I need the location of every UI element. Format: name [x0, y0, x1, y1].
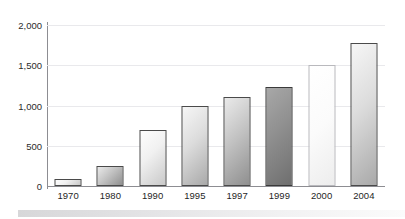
- bar-slot: [301, 25, 343, 186]
- x-tick-label: 2004: [353, 190, 374, 201]
- bar[interactable]: [55, 179, 82, 186]
- x-tick-label: 1999: [269, 190, 290, 201]
- bar-slot: [258, 25, 300, 186]
- bar[interactable]: [97, 166, 124, 186]
- y-tick-label: 2,000: [0, 20, 42, 31]
- y-tick-label: 0: [0, 181, 42, 192]
- y-tick-label: 1,000: [0, 100, 42, 111]
- bar-slot: [132, 25, 174, 186]
- bar[interactable]: [308, 65, 335, 186]
- y-tick-label: 500: [0, 140, 42, 151]
- chart-title-cropped: [22, 0, 282, 6]
- bar-slot: [216, 25, 258, 186]
- x-axis-line: [47, 186, 385, 187]
- bar[interactable]: [224, 97, 251, 186]
- x-tick-label: 1995: [184, 190, 205, 201]
- x-axis-labels: 19701980199019951997199920002004: [47, 190, 385, 206]
- bar[interactable]: [181, 106, 208, 187]
- x-tick-label: 2000: [311, 190, 332, 201]
- bar-slot: [343, 25, 385, 186]
- bar-slot: [89, 25, 131, 186]
- bar[interactable]: [139, 130, 166, 186]
- bottom-decorative-band: [18, 210, 405, 217]
- y-axis-labels: 2,0001,5001,0005000: [0, 0, 42, 219]
- bar[interactable]: [350, 43, 377, 186]
- x-tick-label: 1980: [100, 190, 121, 201]
- y-tick-label: 1,500: [0, 60, 42, 71]
- bar-series: [47, 25, 385, 186]
- bar[interactable]: [266, 87, 293, 186]
- x-tick-label: 1997: [227, 190, 248, 201]
- plot-area: [47, 25, 385, 186]
- x-tick-label: 1970: [58, 190, 79, 201]
- bar-slot: [47, 25, 89, 186]
- x-tick-label: 1990: [142, 190, 163, 201]
- bar-slot: [174, 25, 216, 186]
- chart-figure: 2,0001,5001,0005000 19701980199019951997…: [0, 0, 405, 219]
